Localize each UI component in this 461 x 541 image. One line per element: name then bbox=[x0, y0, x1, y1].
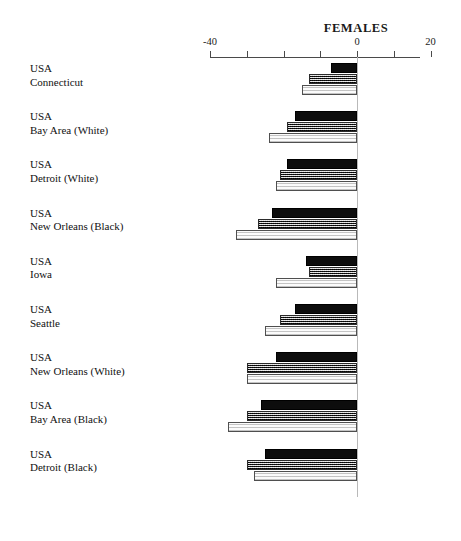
category-label-country: USA bbox=[30, 351, 195, 365]
category-label: USADetroit (White) bbox=[30, 158, 195, 185]
category-label-region: Detroit (White) bbox=[30, 172, 195, 186]
category-label-region: Iowa bbox=[30, 268, 195, 282]
category-label-country: USA bbox=[30, 62, 195, 76]
category-label: USANew Orleans (White) bbox=[30, 351, 195, 378]
bar-series-2-hatched bbox=[280, 170, 357, 180]
axis-line bbox=[210, 57, 420, 58]
axis-tick bbox=[357, 51, 358, 57]
bar-series-1-solid bbox=[331, 63, 357, 73]
category-label-country: USA bbox=[30, 255, 195, 269]
bar-series-2-hatched bbox=[247, 363, 357, 373]
zero-reference-line bbox=[357, 57, 358, 497]
category-label-country: USA bbox=[30, 399, 195, 413]
bar-series-1-solid bbox=[265, 449, 357, 459]
category-label-country: USA bbox=[30, 158, 195, 172]
category-label: USAConnecticut bbox=[30, 62, 195, 89]
bar-series-2-hatched bbox=[309, 74, 357, 84]
bar-series-1-solid bbox=[287, 159, 357, 169]
category-label-region: New Orleans (Black) bbox=[30, 220, 195, 234]
category-label-region: Bay Area (White) bbox=[30, 124, 195, 138]
category-label-region: Bay Area (Black) bbox=[30, 413, 195, 427]
bar-series-3-open bbox=[236, 230, 357, 240]
axis-tick bbox=[247, 51, 248, 57]
category-label: USADetroit (Black) bbox=[30, 448, 195, 475]
bar-series-3-open bbox=[269, 133, 357, 143]
category-label-country: USA bbox=[30, 207, 195, 221]
category-label-region: Seattle bbox=[30, 317, 195, 331]
bar-series-1-solid bbox=[306, 256, 357, 266]
bar-series-2-hatched bbox=[258, 219, 357, 229]
axis-tick bbox=[431, 51, 432, 57]
bar-series-1-solid bbox=[295, 304, 357, 314]
category-label-country: USA bbox=[30, 110, 195, 124]
category-label: USANew Orleans (Black) bbox=[30, 207, 195, 234]
bar-series-3-open bbox=[228, 422, 357, 432]
axis-tick-label: 20 bbox=[411, 36, 451, 47]
axis-tick bbox=[394, 51, 395, 57]
bar-series-1-solid bbox=[295, 111, 357, 121]
category-label-region: Detroit (Black) bbox=[30, 461, 195, 475]
category-label: USASeattle bbox=[30, 303, 195, 330]
category-label-country: USA bbox=[30, 303, 195, 317]
axis-tick bbox=[320, 51, 321, 57]
axis-tick-label: 0 bbox=[337, 36, 377, 47]
axis-tick bbox=[210, 51, 211, 57]
bar-series-1-solid bbox=[276, 352, 357, 362]
axis-tick-label: -40 bbox=[190, 36, 230, 47]
chart-root: FEMALES -40020 USAConnecticutUSABay Area… bbox=[0, 0, 461, 541]
bar-series-3-open bbox=[276, 278, 357, 288]
category-label: USABay Area (Black) bbox=[30, 399, 195, 426]
bar-series-2-hatched bbox=[247, 460, 357, 470]
axis-tick bbox=[284, 51, 285, 57]
bar-series-3-open bbox=[302, 85, 357, 95]
bar-series-2-hatched bbox=[309, 267, 357, 277]
bar-series-1-solid bbox=[272, 208, 357, 218]
bar-series-1-solid bbox=[261, 400, 357, 410]
bar-series-2-hatched bbox=[280, 315, 357, 325]
bar-series-2-hatched bbox=[247, 411, 357, 421]
category-label-country: USA bbox=[30, 448, 195, 462]
category-label: USAIowa bbox=[30, 255, 195, 282]
category-label: USABay Area (White) bbox=[30, 110, 195, 137]
bar-series-2-hatched bbox=[287, 122, 357, 132]
bar-series-3-open bbox=[247, 374, 357, 384]
bar-series-3-open bbox=[276, 181, 357, 191]
category-label-region: Connecticut bbox=[30, 76, 195, 90]
bar-series-3-open bbox=[254, 471, 357, 481]
category-label-region: New Orleans (White) bbox=[30, 365, 195, 379]
bar-series-3-open bbox=[265, 326, 357, 336]
